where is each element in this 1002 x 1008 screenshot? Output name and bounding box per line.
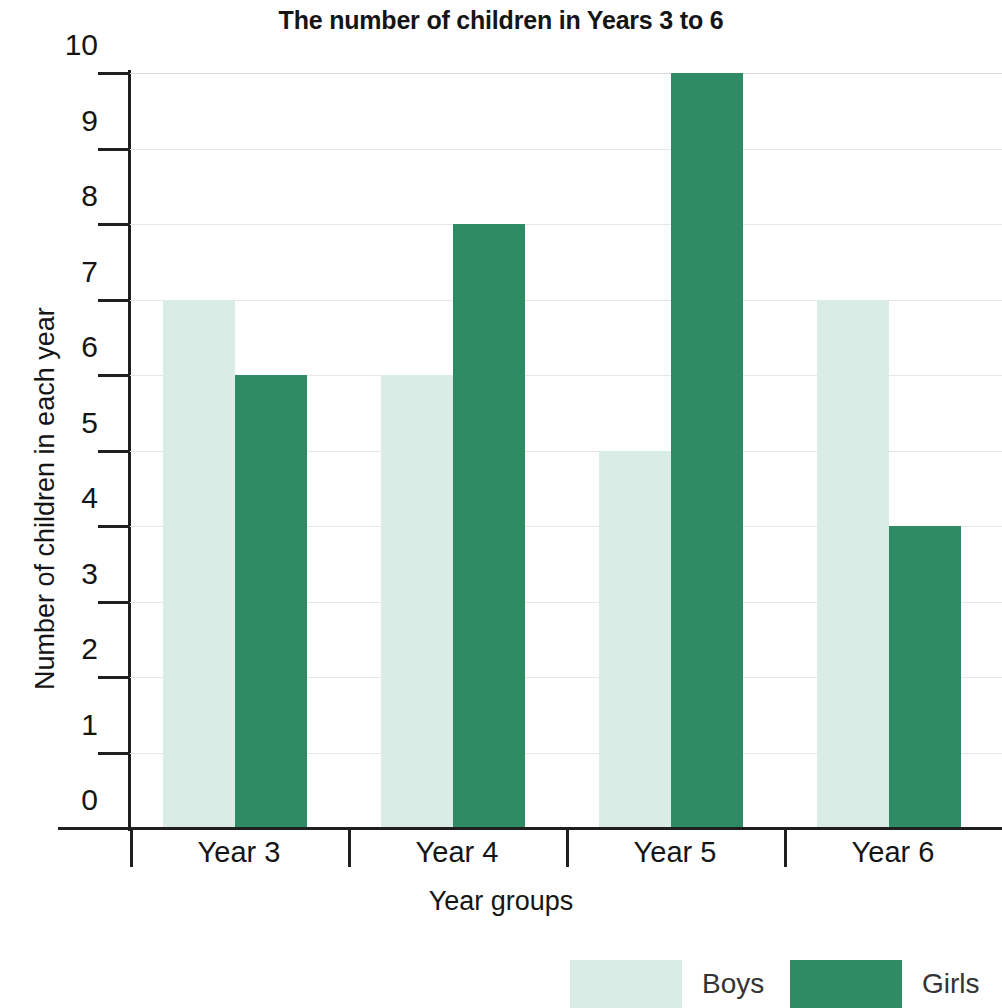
- legend-swatch-girls: [790, 960, 902, 1008]
- legend-label-boys: Boys: [702, 968, 764, 1000]
- legend-label-girls: Girls: [922, 968, 980, 1000]
- gridline: [130, 224, 1002, 225]
- plot-area: [130, 73, 1002, 828]
- y-axis-tick-label: 8: [38, 181, 98, 211]
- category-separator: [348, 829, 351, 867]
- y-axis-tick-label: 1: [38, 710, 98, 740]
- category-separator: [130, 829, 133, 867]
- y-axis-tick-label: 6: [38, 332, 98, 362]
- y-axis-tick: [98, 752, 130, 755]
- category-label-year-4: Year 4: [357, 836, 557, 869]
- bar-year-4-boys: [381, 375, 453, 828]
- category-separator: [566, 829, 569, 867]
- y-axis-tick-label: 0: [38, 785, 98, 815]
- bar-year-5-boys: [599, 451, 671, 829]
- y-axis-tick: [98, 676, 130, 679]
- y-axis-tick: [98, 299, 130, 302]
- bar-year-5-girls: [671, 73, 743, 828]
- y-axis-tick-label: 5: [38, 408, 98, 438]
- y-axis-tick-label: 10: [38, 30, 98, 60]
- category-label-year-6: Year 6: [793, 836, 993, 869]
- y-axis-tick-label: 7: [38, 257, 98, 287]
- category-separator: [784, 829, 787, 867]
- y-axis-tick: [98, 450, 130, 453]
- y-axis-tick: [98, 601, 130, 604]
- legend-swatch-boys: [570, 960, 682, 1008]
- bar-year-6-boys: [817, 300, 889, 829]
- x-axis-title: Year groups: [0, 886, 1002, 917]
- bar-year-3-girls: [235, 375, 307, 828]
- y-axis-tick: [98, 148, 130, 151]
- chart-title: The number of children in Years 3 to 6: [0, 6, 1002, 35]
- y-axis-tick: [98, 72, 130, 75]
- y-axis-tick: [98, 223, 130, 226]
- y-axis-tick-label: 9: [38, 106, 98, 136]
- bar-year-4-girls: [453, 224, 525, 828]
- category-label-year-3: Year 3: [139, 836, 339, 869]
- y-axis-tick: [98, 525, 130, 528]
- category-label-year-5: Year 5: [575, 836, 775, 869]
- x-axis-line: [58, 827, 1002, 830]
- bar-year-6-girls: [889, 526, 961, 828]
- gridline: [130, 73, 1002, 74]
- y-axis-tick-label: 4: [38, 483, 98, 513]
- gridline: [130, 149, 1002, 150]
- y-axis-tick-label: 3: [38, 559, 98, 589]
- y-axis-tick: [98, 374, 130, 377]
- bar-year-3-boys: [163, 300, 235, 829]
- chart-legend: BoysGirls: [0, 956, 1002, 1008]
- y-axis-tick-label: 2: [38, 634, 98, 664]
